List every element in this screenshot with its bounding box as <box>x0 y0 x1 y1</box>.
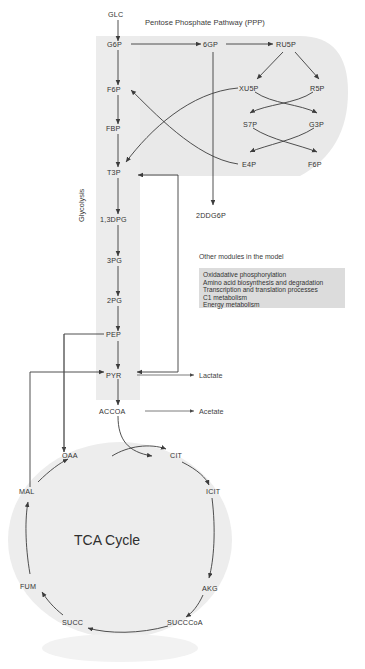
node-fum: FUM <box>20 582 36 591</box>
node-succ: SUCC <box>62 618 83 627</box>
node-r5p: R5P <box>310 84 325 93</box>
node-akg: AKG <box>202 584 218 593</box>
ppp-title: Pentose Phosphate Pathway (PPP) <box>145 18 265 27</box>
tca-title: TCA Cycle <box>74 532 140 548</box>
diagram-canvas: GLC Pentose Phosphate Pathway (PPP) TCA … <box>0 0 365 669</box>
node-pep: PEP <box>106 330 121 339</box>
module-item-4: Energy metabolism <box>203 301 260 309</box>
node-e4p: E4P <box>242 160 256 169</box>
node-oaa: OAA <box>62 451 78 460</box>
node-icit: ICIT <box>206 487 221 496</box>
node-g6p: G6P <box>107 40 122 49</box>
node-13dpg: 1,3DPG <box>100 215 127 224</box>
node-3pg: 3PG <box>107 256 122 265</box>
node-2ddg6p: 2DDG6P <box>196 211 226 220</box>
node-pyr: PYR <box>106 371 121 380</box>
node-succcoa: SUCCCoA <box>167 618 203 627</box>
node-6gp: 6GP <box>203 40 218 49</box>
node-t3p: T3P <box>107 168 121 177</box>
node-g3p: G3P <box>309 120 324 129</box>
node-f6p: F6P <box>107 85 121 94</box>
other-modules-heading: Other modules in the model <box>199 253 284 260</box>
node-glc: GLC <box>108 10 123 19</box>
node-2pg: 2PG <box>107 296 122 305</box>
node-f6p-ppp: F6P <box>308 160 322 169</box>
node-fbp: FBP <box>106 124 121 133</box>
node-mal: MAL <box>19 487 34 496</box>
output-lactate: Lactate <box>199 371 223 380</box>
output-edges <box>137 375 194 411</box>
node-xu5p: XU5P <box>239 84 259 93</box>
module-item-3: C1 metabolism <box>203 294 247 301</box>
node-s7p: S7P <box>243 120 257 129</box>
metabolic-pathway-diagram: GLC Pentose Phosphate Pathway (PPP) TCA … <box>0 0 365 669</box>
node-ru5p: RU5P <box>276 40 296 49</box>
glycolysis-label: Glycolysis <box>77 188 86 222</box>
output-acetate: Acetate <box>199 407 223 416</box>
scan-artifact <box>42 634 198 662</box>
node-cit: CIT <box>170 451 183 460</box>
node-accoa: ACCOA <box>99 407 126 416</box>
